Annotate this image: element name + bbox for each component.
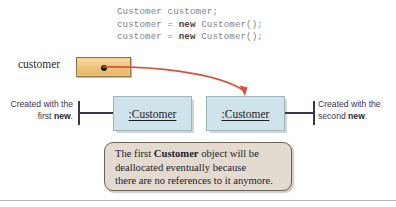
- callout-line2: deallocated eventually because: [115, 162, 246, 173]
- code-line-2-keyword: new: [179, 19, 196, 30]
- object-box-first-customer: :Customer: [113, 96, 192, 131]
- object-label-second: :Customer: [222, 108, 270, 120]
- code-line-2-suffix: Customer();: [196, 19, 263, 30]
- object-box-second-customer: :Customer: [206, 96, 285, 131]
- variable-label: customer: [18, 58, 60, 70]
- callout-box: The first Customer object will be deallo…: [104, 142, 292, 191]
- callout-line3: there are no references to it anymore.: [115, 175, 273, 186]
- connector-line-right: [285, 112, 314, 114]
- callout-line1-prefix: The first: [115, 148, 154, 159]
- callout-line1-suffix: object will be: [199, 148, 259, 159]
- annotation-right-keyword: new: [348, 111, 365, 121]
- reference-dot-icon: [101, 65, 107, 71]
- variable-reference-box: [76, 57, 131, 77]
- code-snippet: Customer customer; customer = new Custom…: [117, 6, 263, 44]
- connector-line-left: [78, 112, 113, 114]
- bottom-divider: [0, 200, 396, 201]
- annotation-right-line1: Created with the: [318, 99, 381, 109]
- callout-line1-bold: Customer: [154, 148, 199, 159]
- annotation-left-line1: Created with the: [10, 99, 73, 109]
- annotation-left: Created with the first new.: [5, 99, 73, 122]
- code-line-3-prefix: customer =: [117, 31, 179, 42]
- code-line-3-suffix: Customer();: [196, 31, 263, 42]
- annotation-right-line2-prefix: second: [318, 111, 348, 121]
- annotation-left-keyword: new: [54, 111, 71, 121]
- annotation-right: Created with the second new.: [318, 99, 386, 122]
- object-label-first: :Customer: [129, 108, 177, 120]
- code-line-2-prefix: customer =: [117, 19, 179, 30]
- figure-canvas: Customer customer; customer = new Custom…: [0, 0, 396, 207]
- code-line-3-keyword: new: [179, 31, 196, 42]
- callout-text: The first Customer object will be deallo…: [115, 147, 291, 188]
- annotation-right-line2-suffix: .: [365, 111, 367, 121]
- annotation-left-line2-prefix: first: [38, 111, 54, 121]
- code-line-1: Customer customer;: [117, 6, 218, 17]
- annotation-left-line2-suffix: .: [71, 111, 73, 121]
